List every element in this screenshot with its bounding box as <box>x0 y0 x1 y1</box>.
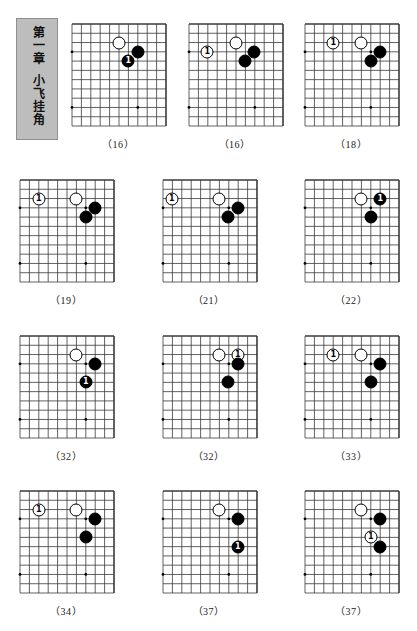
goban-grid <box>157 330 261 442</box>
move-stone-white[interactable]: 1 <box>327 36 340 49</box>
star-point <box>161 418 164 421</box>
star-point <box>304 362 307 365</box>
stone-black[interactable] <box>231 512 244 525</box>
diagram-row-3: 1（32）1（32）1（33） <box>0 330 417 463</box>
stone-black[interactable] <box>364 376 377 389</box>
diagram-row-1: 1（16）1（16）1（18） <box>0 18 417 151</box>
stone-black[interactable] <box>231 357 244 370</box>
goban-grid <box>299 330 403 442</box>
stone-white[interactable] <box>229 36 242 49</box>
move-number: 1 <box>36 194 42 202</box>
move-number: 1 <box>205 47 211 55</box>
goban[interactable]: 1 <box>157 330 261 442</box>
stone-white[interactable] <box>212 348 225 361</box>
diagram-caption: （33） <box>335 448 367 463</box>
stone-white[interactable] <box>70 348 83 361</box>
star-point <box>84 262 87 265</box>
move-number: 1 <box>169 194 175 202</box>
goban-grid <box>157 485 261 597</box>
stone-black[interactable] <box>238 55 251 68</box>
star-point <box>369 106 372 109</box>
star-point <box>304 418 307 421</box>
move-stone-black[interactable]: 1 <box>374 192 387 205</box>
goban-grid <box>14 330 118 442</box>
star-point <box>369 50 372 53</box>
move-stone-black[interactable]: 1 <box>231 540 244 553</box>
star-point <box>304 573 307 576</box>
stone-black[interactable] <box>89 357 102 370</box>
stone-black[interactable] <box>222 376 235 389</box>
move-stone-black[interactable]: 1 <box>122 55 135 68</box>
diagram-caption: （16） <box>102 136 134 151</box>
goban[interactable]: 1 <box>183 18 287 130</box>
stone-black[interactable] <box>374 512 387 525</box>
stone-white[interactable] <box>70 503 83 516</box>
star-point <box>187 106 190 109</box>
goban[interactable]: 1 <box>157 174 261 286</box>
diagram-caption: （22） <box>335 292 367 307</box>
star-point <box>84 418 87 421</box>
star-point <box>253 106 256 109</box>
stone-white[interactable] <box>355 348 368 361</box>
stone-black[interactable] <box>79 211 92 224</box>
diagram-caption: （18） <box>335 136 367 151</box>
stone-black[interactable] <box>364 211 377 224</box>
stone-black[interactable] <box>222 211 235 224</box>
star-point <box>369 362 372 365</box>
move-stone-white[interactable]: 1 <box>32 503 45 516</box>
stone-black[interactable] <box>374 357 387 370</box>
goban-grid <box>183 18 287 130</box>
move-stone-white[interactable]: 1 <box>201 45 214 58</box>
goban-grid <box>299 18 403 130</box>
stone-white[interactable] <box>212 192 225 205</box>
star-point <box>227 206 230 209</box>
diagram-row-4: 1（34）1（37）1（37） <box>0 485 417 618</box>
stone-white[interactable] <box>70 192 83 205</box>
star-point <box>71 50 74 53</box>
stone-white[interactable] <box>355 36 368 49</box>
star-point <box>227 517 230 520</box>
goban[interactable]: 1 <box>14 174 118 286</box>
move-stone-black[interactable]: 1 <box>79 376 92 389</box>
stone-black[interactable] <box>79 531 92 544</box>
star-point <box>227 418 230 421</box>
star-point <box>19 517 22 520</box>
move-number: 1 <box>377 194 383 202</box>
stone-black[interactable] <box>374 540 387 553</box>
move-stone-white[interactable]: 1 <box>327 348 340 361</box>
move-number: 1 <box>126 57 132 65</box>
move-stone-white[interactable]: 1 <box>165 192 178 205</box>
goban[interactable]: 1 <box>299 174 403 286</box>
goban[interactable]: 1 <box>14 330 118 442</box>
stone-white[interactable] <box>113 36 126 49</box>
star-point <box>19 362 22 365</box>
stone-black[interactable] <box>89 512 102 525</box>
goban[interactable]: 1 <box>299 18 403 130</box>
stone-white[interactable] <box>355 192 368 205</box>
star-point <box>304 50 307 53</box>
diagram-row-2: 1（19）1（21）1（22） <box>0 174 417 307</box>
move-stone-white[interactable]: 1 <box>32 192 45 205</box>
star-point <box>227 262 230 265</box>
go-diagram: 1（37） <box>157 485 261 618</box>
goban[interactable]: 1 <box>157 485 261 597</box>
star-point <box>161 262 164 265</box>
star-point <box>304 517 307 520</box>
goban[interactable]: 1 <box>299 485 403 597</box>
move-number: 1 <box>330 38 336 46</box>
go-diagram: 1（16） <box>66 18 170 151</box>
move-number: 1 <box>36 505 42 513</box>
goban-grid <box>299 485 403 597</box>
stone-black[interactable] <box>364 55 377 68</box>
star-point <box>84 206 87 209</box>
goban[interactable]: 1 <box>14 485 118 597</box>
goban[interactable]: 1 <box>299 330 403 442</box>
stone-white[interactable] <box>212 503 225 516</box>
stone-white[interactable] <box>355 503 368 516</box>
diagram-caption: （34） <box>50 603 82 618</box>
star-point <box>369 517 372 520</box>
star-point <box>161 517 164 520</box>
move-number: 1 <box>368 533 374 541</box>
goban[interactable]: 1 <box>66 18 170 130</box>
star-point <box>369 262 372 265</box>
